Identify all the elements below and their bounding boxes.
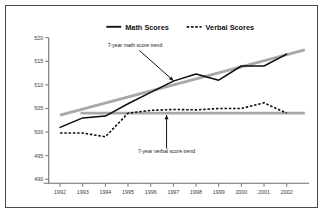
annotation-1-arrow — [139, 50, 173, 80]
data-series — [60, 54, 287, 137]
y-tick-label-495: 495 — [34, 153, 43, 159]
sat-scores-line-chart: Math ScoresVerbal Scores 490495500505510… — [6, 6, 317, 207]
x-tick-label-1992: 1992 — [54, 189, 66, 195]
legend: Math ScoresVerbal Scores — [106, 23, 254, 32]
y-tick-label-520: 520 — [34, 35, 43, 41]
y-tick-label-510: 510 — [34, 82, 43, 88]
x-tick-label-1995: 1995 — [122, 189, 134, 195]
annotation-1-label: 7-year math score trend — [108, 42, 163, 48]
annotation-2-arrowhead — [165, 115, 169, 119]
y-tick-label-500: 500 — [34, 129, 43, 135]
y-tick-label-515: 515 — [34, 58, 43, 64]
x-tick-label-2001: 2001 — [258, 189, 270, 195]
y-tick-label-490: 490 — [34, 176, 43, 182]
x-axis: 1992199319941995199619971998199920002001… — [44, 183, 309, 194]
legend-label-1: Math Scores — [125, 23, 169, 32]
legend-label-2: Verbal Scores — [206, 23, 255, 32]
x-tick-label-2002: 2002 — [281, 189, 293, 195]
x-tick-label-1993: 1993 — [77, 189, 89, 195]
x-tick-label-1996: 1996 — [145, 189, 157, 195]
x-tick-label-1997: 1997 — [167, 189, 179, 195]
y-axis: 490495500505510515520 — [34, 35, 48, 184]
annotation-2-label: 7-year verbal score trend — [138, 148, 195, 154]
y-tick-label-505: 505 — [34, 105, 43, 111]
x-tick-label-1994: 1994 — [99, 189, 111, 195]
x-tick-label-2000: 2000 — [235, 189, 247, 195]
x-tick-label-1998: 1998 — [190, 189, 202, 195]
chart-frame: Math ScoresVerbal Scores 490495500505510… — [5, 5, 318, 208]
series-verbal-scores — [60, 103, 287, 137]
x-tick-label-1999: 1999 — [213, 189, 225, 195]
